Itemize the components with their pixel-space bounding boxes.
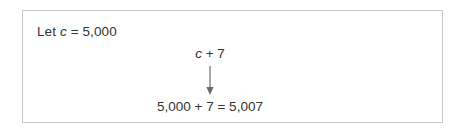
- result-line: 5,000 + 7 = 5,007: [23, 100, 397, 114]
- expression-line: c + 7: [23, 47, 397, 61]
- arrow-container: [23, 66, 397, 96]
- declaration-prefix: Let: [37, 24, 60, 39]
- example-panel: Let c = 5,000 c + 7 5,000 + 7 = 5,007: [22, 10, 443, 123]
- substitution-steps: c + 7 5,000 + 7 = 5,007: [23, 47, 397, 113]
- down-arrow-icon: [203, 66, 217, 96]
- declaration-assignment: = 5,000: [67, 24, 117, 39]
- figure-root: Let c = 5,000 c + 7 5,000 + 7 = 5,007: [0, 0, 465, 132]
- declaration-variable: c: [60, 24, 67, 39]
- expression-variable: c: [195, 46, 202, 61]
- expression-operator: + 7: [202, 46, 225, 61]
- variable-declaration: Let c = 5,000: [37, 24, 117, 39]
